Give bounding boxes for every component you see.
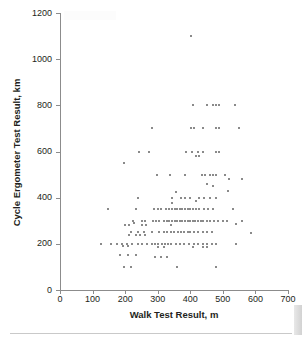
data-point — [107, 208, 109, 210]
data-point — [197, 151, 199, 153]
data-point — [202, 220, 204, 222]
data-point — [133, 222, 135, 224]
data-point — [227, 190, 229, 192]
data-point — [198, 208, 200, 210]
data-point — [209, 220, 211, 222]
data-point — [215, 197, 217, 199]
data-point — [211, 231, 213, 233]
data-point — [218, 104, 220, 106]
data-point — [175, 191, 177, 193]
data-point — [193, 127, 195, 129]
data-point — [155, 220, 157, 222]
data-point — [206, 183, 208, 185]
data-point — [184, 197, 186, 199]
data-point — [183, 231, 185, 233]
y-tick-label: 0 — [18, 286, 52, 295]
data-point — [197, 243, 199, 245]
x-tick-label: 0 — [45, 295, 75, 304]
data-point — [212, 208, 214, 210]
page-edge-artifact — [294, 305, 302, 335]
data-point — [170, 243, 172, 245]
data-point — [116, 243, 118, 245]
data-point — [176, 266, 178, 268]
data-point — [184, 208, 186, 210]
data-point — [168, 208, 170, 210]
data-point — [139, 234, 141, 236]
data-point — [166, 231, 168, 233]
data-point — [137, 243, 139, 245]
data-point — [151, 231, 153, 233]
x-tick-label: 300 — [143, 295, 173, 304]
data-point — [137, 197, 139, 199]
data-point — [190, 127, 192, 129]
bottom-rule — [10, 333, 292, 334]
data-point — [163, 231, 165, 233]
data-point — [191, 151, 193, 153]
x-tick-label: 700 — [273, 295, 302, 304]
data-point — [110, 243, 112, 245]
data-point — [180, 231, 182, 233]
data-point — [127, 245, 129, 247]
data-point — [127, 254, 129, 256]
data-point — [241, 178, 243, 180]
x-tick-label: 500 — [208, 295, 238, 304]
data-point — [180, 197, 182, 199]
data-point — [157, 208, 159, 210]
data-point — [100, 243, 102, 245]
x-axis-line — [60, 290, 288, 291]
data-point — [241, 220, 243, 222]
data-point — [202, 246, 204, 248]
data-point — [175, 243, 177, 245]
x-tick-label: 200 — [110, 295, 140, 304]
data-point — [215, 151, 217, 153]
y-axis-title: Cycle Ergometer Test Result, km — [11, 43, 22, 263]
data-point — [131, 243, 133, 245]
scatter-plot-figure: 020040060080010001200 010020030040050060… — [0, 0, 302, 342]
data-point — [170, 231, 172, 233]
data-point — [165, 208, 167, 210]
data-point — [138, 151, 140, 153]
data-point — [215, 127, 217, 129]
data-point — [234, 104, 236, 106]
data-point — [123, 162, 125, 164]
data-point — [218, 127, 220, 129]
data-point — [135, 254, 137, 256]
data-point — [123, 266, 125, 268]
data-point — [170, 224, 172, 226]
y-tick-label: 1000 — [18, 55, 52, 64]
data-point — [204, 174, 206, 176]
data-point — [190, 35, 192, 37]
y-tick-label: 400 — [18, 193, 52, 202]
data-point — [197, 231, 199, 233]
data-point — [153, 208, 155, 210]
data-point — [228, 178, 230, 180]
data-point — [130, 266, 132, 268]
y-tick-label: 800 — [18, 101, 52, 110]
data-point — [250, 232, 252, 234]
data-point — [215, 174, 217, 176]
data-point — [184, 174, 186, 176]
data-point — [193, 243, 195, 245]
data-point — [206, 220, 208, 222]
data-point — [158, 231, 160, 233]
data-point — [151, 243, 153, 245]
data-point — [135, 208, 137, 210]
data-point — [215, 104, 217, 106]
data-point — [183, 243, 185, 245]
data-point — [195, 155, 197, 157]
data-point — [235, 223, 237, 225]
data-point — [215, 266, 217, 268]
data-point — [212, 185, 214, 187]
x-tick-label: 600 — [240, 295, 270, 304]
data-point — [206, 231, 208, 233]
data-point — [152, 220, 154, 222]
data-point — [163, 246, 165, 248]
data-point — [202, 243, 204, 245]
data-point — [192, 246, 194, 248]
data-point — [195, 208, 197, 210]
data-point — [144, 220, 146, 222]
data-point — [124, 224, 126, 226]
data-point — [157, 243, 159, 245]
data-point — [177, 231, 179, 233]
data-point — [161, 243, 163, 245]
